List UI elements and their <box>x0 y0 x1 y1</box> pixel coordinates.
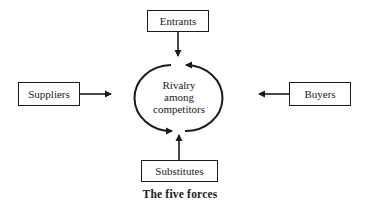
entrants-label: Entrants <box>160 15 197 27</box>
figure-caption: The five forces <box>140 188 220 200</box>
rivalry-label: Rivalry among competitors <box>138 79 220 115</box>
rivalry-line-1: Rivalry <box>138 79 220 91</box>
substitutes-box: Substitutes <box>141 160 218 182</box>
suppliers-label: Suppliers <box>28 88 70 100</box>
substitutes-label: Substitutes <box>155 165 203 177</box>
rivalry-line-3: competitors <box>138 103 220 115</box>
buyers-box: Buyers <box>289 82 351 106</box>
entrants-box: Entrants <box>147 10 209 32</box>
suppliers-box: Suppliers <box>18 82 80 106</box>
buyers-label: Buyers <box>304 88 335 100</box>
rivalry-line-2: among <box>138 91 220 103</box>
